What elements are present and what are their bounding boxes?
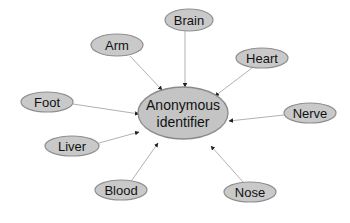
center-node: Anonymous identifier bbox=[138, 87, 228, 139]
edge-liver-to-center bbox=[99, 132, 139, 143]
node-blood: Blood bbox=[95, 180, 147, 200]
node-nose: Nose bbox=[224, 182, 276, 202]
node-arm: Arm bbox=[91, 34, 143, 56]
node-foot-label: Foot bbox=[34, 95, 60, 110]
edge-arm-to-center bbox=[130, 56, 162, 90]
node-heart-label: Heart bbox=[246, 51, 278, 66]
node-nose-label: Nose bbox=[235, 185, 265, 200]
center-node-ellipse bbox=[138, 87, 228, 139]
node-nerve-label: Nerve bbox=[293, 106, 328, 121]
node-heart: Heart bbox=[236, 48, 288, 68]
edge-heart-to-center bbox=[215, 68, 252, 96]
edge-blood-to-center bbox=[132, 143, 158, 180]
node-liver-label: Liver bbox=[58, 139, 87, 154]
center-label-line2: identifier bbox=[157, 114, 210, 130]
node-nerve: Nerve bbox=[284, 103, 336, 123]
edge-nerve-to-center bbox=[229, 115, 284, 121]
node-blood-label: Blood bbox=[104, 183, 137, 198]
edge-nose-to-center bbox=[211, 146, 243, 182]
node-foot: Foot bbox=[21, 92, 73, 112]
edge-foot-to-center bbox=[73, 104, 139, 114]
hub-spoke-diagram: BrainArmHeartFootNerveLiverBloodNose Ano… bbox=[0, 0, 350, 223]
node-arm-label: Arm bbox=[105, 38, 129, 53]
center-label-line1: Anonymous bbox=[146, 97, 220, 113]
node-brain: Brain bbox=[165, 9, 213, 31]
node-liver: Liver bbox=[45, 136, 99, 156]
node-brain-label: Brain bbox=[174, 13, 204, 28]
